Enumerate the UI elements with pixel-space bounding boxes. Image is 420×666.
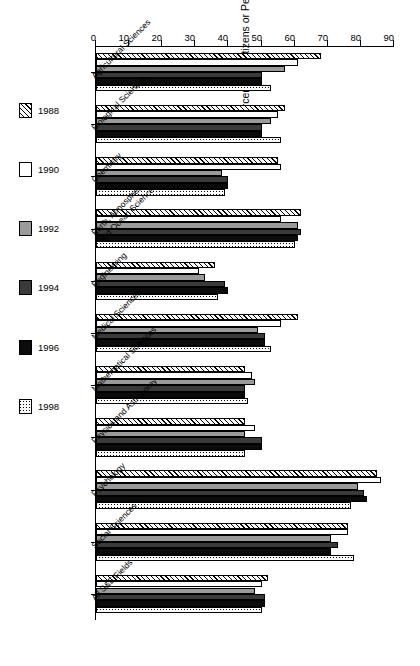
- legend-label: 1996: [38, 342, 59, 353]
- value-tick-label: 50: [261, 0, 262, 46]
- value-tick-label-text: 60: [284, 32, 295, 44]
- legend-swatch: [19, 399, 32, 414]
- value-tick-label: 40: [227, 0, 228, 46]
- value-tick-label-text: 20: [152, 32, 163, 44]
- legend-swatch: [19, 162, 32, 177]
- legend-item: 1990: [19, 159, 62, 180]
- bar: [96, 607, 262, 613]
- value-tick-label: 20: [161, 0, 162, 46]
- value-tick-label: 0: [95, 0, 96, 46]
- value-tick-label: 90: [393, 0, 394, 46]
- bar: [96, 137, 281, 143]
- chart-legend: 198819901992199419961998: [19, 100, 62, 417]
- value-axis-title: Percent US Citizens or Permanent Residen…: [96, 8, 394, 22]
- legend-item: 1994: [19, 277, 62, 298]
- legend-label: 1990: [38, 164, 59, 175]
- legend-label: 1988: [38, 105, 59, 116]
- bar: [96, 346, 271, 352]
- value-tick-label: 80: [360, 0, 361, 46]
- value-tick-label-text: 90: [383, 32, 394, 44]
- bar: [96, 189, 225, 195]
- legend-label: 1992: [38, 223, 59, 234]
- bar: [96, 450, 245, 456]
- value-tick-label-text: 40: [218, 32, 229, 44]
- legend-item: 1998: [19, 396, 62, 417]
- value-tick-label-text: 80: [350, 32, 361, 44]
- value-tick-label: 60: [294, 0, 295, 46]
- bar: [96, 241, 295, 247]
- value-tick-label-text: 70: [317, 32, 328, 44]
- legend-swatch: [19, 340, 32, 355]
- value-tick-label: 70: [327, 0, 328, 46]
- bar: [96, 555, 354, 561]
- value-tick-label-text: 50: [251, 32, 262, 44]
- legend-swatch: [19, 103, 32, 118]
- value-tick-label: 30: [194, 0, 195, 46]
- chart-figure: Percent US Citizens or Permanent Residen…: [0, 0, 420, 666]
- legend-label: 1994: [38, 282, 59, 293]
- legend-item: 1996: [19, 337, 62, 358]
- value-tick-label-text: 0: [91, 32, 96, 44]
- bar: [96, 294, 219, 300]
- legend-swatch: [19, 221, 32, 236]
- value-tick-label-text: 30: [185, 32, 196, 44]
- legend-item: 1988: [19, 100, 62, 121]
- legend-label: 1998: [38, 401, 59, 412]
- legend-swatch: [19, 280, 32, 295]
- legend-item: 1992: [19, 218, 62, 239]
- bar: [96, 398, 248, 404]
